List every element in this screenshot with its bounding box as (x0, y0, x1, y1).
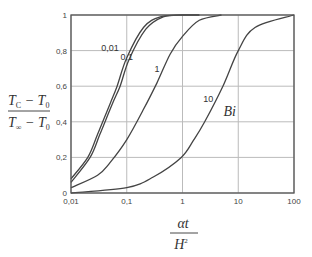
x-tick-label: 10 (234, 197, 243, 206)
x-axis-label: αt H2 (170, 216, 198, 252)
y-tick-label: 0,4 (56, 118, 68, 127)
curve-label: 10 (203, 94, 213, 104)
x-tick-label: 0,01 (63, 197, 79, 206)
svg-text:H2: H2 (173, 237, 188, 252)
curve-label: 0,01 (101, 43, 119, 53)
svg-text:T∞ − T0: T∞ − T0 (8, 115, 50, 132)
x-tick-label: 100 (287, 197, 301, 206)
curve-label: 0,1 (120, 52, 133, 62)
y-axis-label: TC − T0 T∞ − T0 (8, 93, 50, 132)
y-tick-label: 0,2 (56, 153, 68, 162)
y-tick-labels: 00,20,40,60,81 (56, 11, 68, 198)
y-tick-label: 0,8 (56, 47, 68, 56)
x-tick-labels: 0,010,1110100 (63, 197, 301, 206)
curve-bi-1 (71, 15, 222, 188)
chart: 0,010,1110100 00,20,40,60,81 0,010,1110B… (0, 0, 312, 257)
x-tick-label: 0,1 (121, 197, 133, 206)
legend-title-bi: Bi (223, 104, 236, 119)
svg-text:αt: αt (177, 216, 189, 231)
y-tick-label: 0,6 (56, 82, 68, 91)
svg-text:TC − T0: TC − T0 (8, 93, 49, 110)
curve-label: 1 (155, 64, 160, 74)
x-tick-label: 1 (180, 197, 185, 206)
y-tick-label: 0 (63, 189, 68, 198)
y-tick-label: 1 (63, 11, 68, 20)
